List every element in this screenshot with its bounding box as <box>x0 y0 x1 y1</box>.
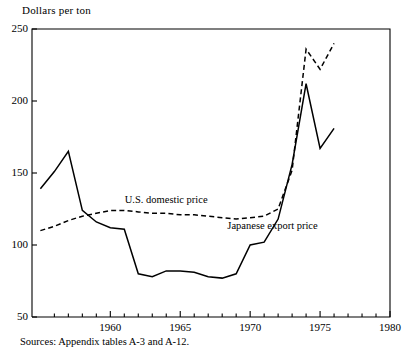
y-axis-tick-label: 150 <box>2 166 28 178</box>
x-axis-tick-label: 1960 <box>90 321 130 333</box>
x-axis-tick-label: 1980 <box>370 321 404 333</box>
source-note: Sources: Appendix tables A-3 and A-12. <box>20 336 189 347</box>
y-axis-tick-label: 100 <box>2 238 28 250</box>
x-axis-tick-label: 1970 <box>230 321 270 333</box>
y-axis-tick-label: 250 <box>2 22 28 34</box>
series-annotation: Japanese export price <box>227 220 317 231</box>
y-axis-tick-label: 50 <box>2 310 28 322</box>
y-axis-tick-label: 200 <box>2 94 28 106</box>
plot-frame <box>32 29 390 317</box>
x-axis-tick-label: 1975 <box>300 321 340 333</box>
series-line-japanese-export-price <box>40 84 334 278</box>
x-axis-tick-label: 1965 <box>160 321 200 333</box>
chart-plot-area <box>0 0 404 353</box>
chart-figure: Dollars per ton Sources: Appendix tables… <box>0 0 404 353</box>
series-annotation: U.S. domestic price <box>125 194 208 205</box>
